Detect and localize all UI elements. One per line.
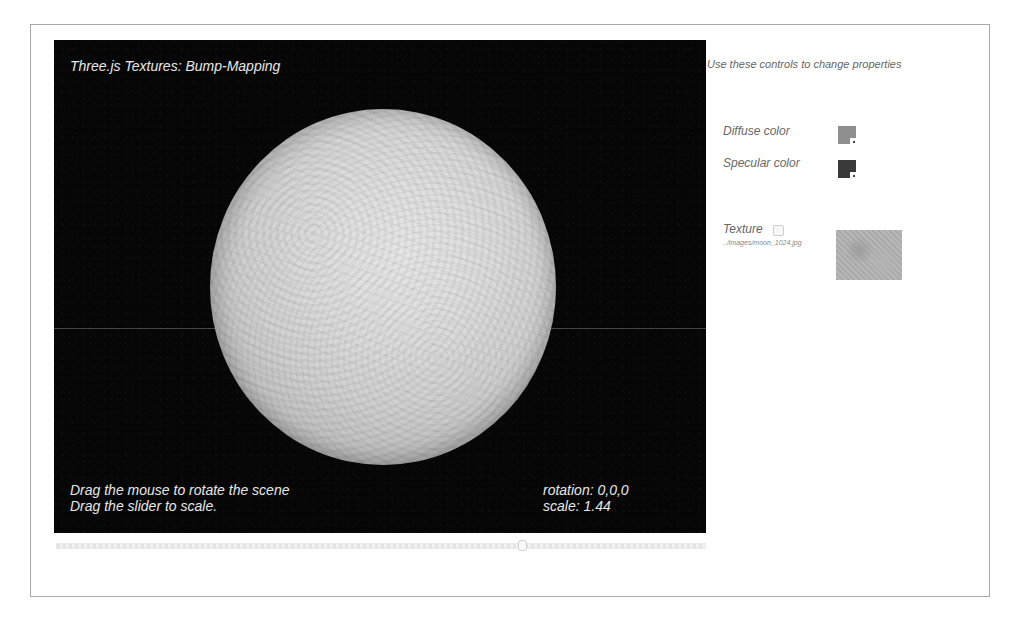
rotation-readout: rotation: 0,0,0 xyxy=(543,482,629,498)
texture-thumbnail[interactable] xyxy=(836,230,902,280)
bump-texture xyxy=(210,109,556,465)
specular-color-label: Specular color xyxy=(723,156,800,170)
webgl-canvas[interactable]: Three.js Textures: Bump-Mapping Drag the… xyxy=(54,40,706,533)
instruction-scale: Drag the slider to scale. xyxy=(70,498,289,514)
slider-track[interactable] xyxy=(56,543,706,549)
scene-title: Three.js Textures: Bump-Mapping xyxy=(70,58,280,74)
slider-thumb[interactable] xyxy=(518,540,527,551)
controls-intro: Use these controls to change properties xyxy=(707,58,901,70)
scale-readout: scale: 1.44 xyxy=(543,498,629,514)
moon-sphere[interactable] xyxy=(210,109,556,465)
texture-checkbox[interactable] xyxy=(773,225,784,236)
color-picker-corner-icon xyxy=(850,172,857,179)
status-readout: rotation: 0,0,0 scale: 1.44 xyxy=(543,482,629,514)
color-picker-corner-icon xyxy=(850,138,857,145)
texture-path: ../images/moon_1024.jpg xyxy=(723,239,802,246)
diffuse-color-label: Diffuse color xyxy=(723,124,790,138)
texture-label: Texture xyxy=(723,222,763,236)
diffuse-color-picker[interactable] xyxy=(838,126,856,144)
scale-slider[interactable] xyxy=(56,540,706,550)
instruction-rotate: Drag the mouse to rotate the scene xyxy=(70,482,289,498)
specular-color-picker[interactable] xyxy=(838,160,856,178)
instructions: Drag the mouse to rotate the scene Drag … xyxy=(70,482,289,514)
